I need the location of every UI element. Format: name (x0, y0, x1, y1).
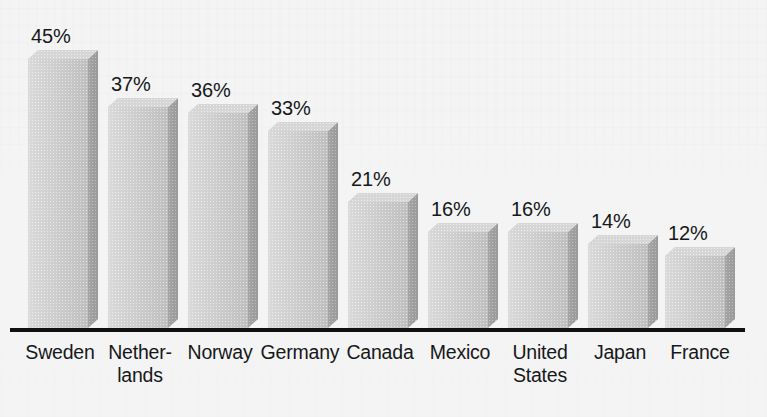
bar-top-face (268, 122, 338, 131)
bar (108, 98, 178, 328)
bar-side-face (248, 104, 258, 328)
category-label-france: France (640, 341, 760, 364)
bar-side-face (328, 122, 338, 328)
bar-value-label: 14% (591, 210, 631, 233)
category-label-line: France (640, 341, 760, 364)
bar-front-face (428, 232, 488, 328)
bar-value-label: 36% (191, 79, 231, 102)
bar-value-label: 45% (31, 25, 71, 48)
category-label-line: lands (80, 364, 200, 387)
bar-top-face (588, 235, 658, 244)
bar-top-face (28, 50, 98, 59)
bar-value-label: 16% (431, 198, 471, 221)
bar-value-label: 21% (351, 168, 391, 191)
bar-value-label: 37% (111, 73, 151, 96)
bar-top-face (665, 247, 735, 256)
bar-side-face (725, 247, 735, 328)
bar-top-face (348, 193, 418, 202)
bar (588, 235, 658, 328)
bar-front-face (508, 232, 568, 328)
bar-top-face (188, 104, 258, 113)
bar (28, 50, 98, 328)
bar (428, 223, 498, 328)
bar-front-face (28, 59, 88, 328)
bar (188, 104, 258, 328)
bar-value-label: 16% (511, 198, 551, 221)
bar-side-face (568, 223, 578, 328)
bar-front-face (665, 256, 725, 328)
bar-side-face (168, 98, 178, 328)
bar-value-label: 33% (271, 97, 311, 120)
bar-front-face (588, 244, 648, 328)
bar-top-face (428, 223, 498, 232)
category-label-line: States (480, 364, 600, 387)
bar-side-face (488, 223, 498, 328)
bar (665, 247, 735, 328)
bar-chart: 45%37%36%33%21%16%16%14%12% SwedenNether… (0, 0, 767, 417)
bar (268, 122, 338, 328)
bar-front-face (188, 113, 248, 328)
bar (348, 193, 418, 328)
bar-value-label: 12% (668, 222, 708, 245)
x-axis-baseline (10, 328, 745, 332)
bar-top-face (508, 223, 578, 232)
bar-front-face (348, 202, 408, 328)
bar-top-face (108, 98, 178, 107)
bar-front-face (108, 107, 168, 328)
bar-side-face (88, 50, 98, 328)
bar (508, 223, 578, 328)
bar-front-face (268, 131, 328, 328)
bar-side-face (408, 193, 418, 328)
bar-side-face (648, 235, 658, 328)
